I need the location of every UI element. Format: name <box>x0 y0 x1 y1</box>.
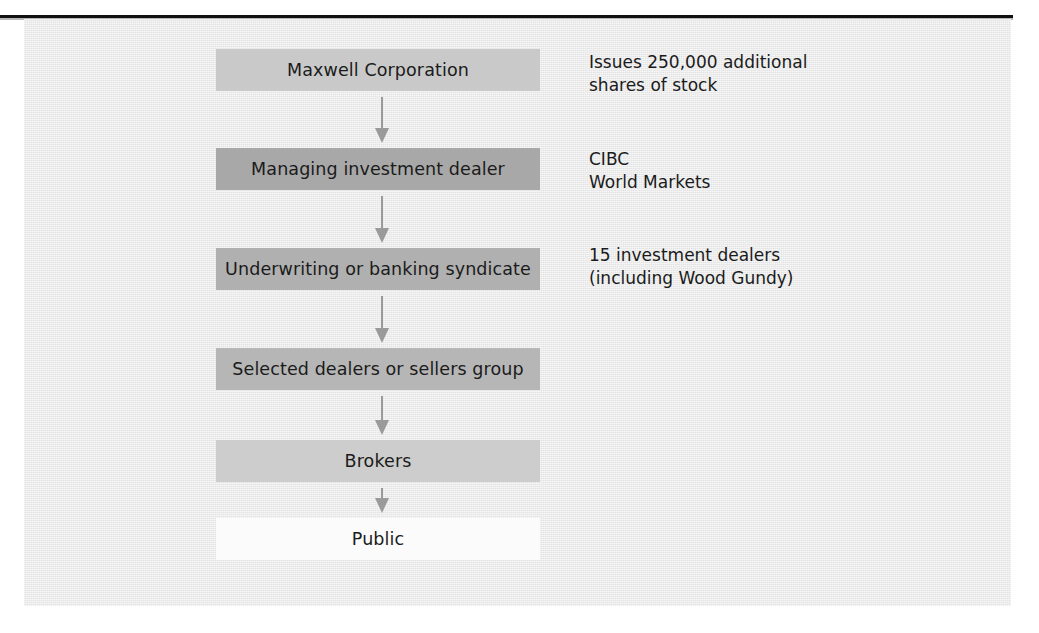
flow-box-label: Public <box>352 529 404 549</box>
arrow-head-icon <box>375 228 389 243</box>
flow-box-label: Underwriting or banking syndicate <box>225 259 531 279</box>
arrow-shaft <box>381 196 383 229</box>
arrow-shaft <box>381 296 383 329</box>
flow-box-issuer: Maxwell Corporation <box>216 49 540 91</box>
flow-box-selected-dealers: Selected dealers or sellers group <box>216 348 540 390</box>
annotation-managing-dealer-note: CIBC World Markets <box>589 148 710 194</box>
arrow-issuer-to-managing-dealer <box>375 97 389 143</box>
arrow-shaft <box>381 396 383 421</box>
flow-box-label: Managing investment dealer <box>251 159 505 179</box>
flow-box-label: Maxwell Corporation <box>287 60 469 80</box>
annotation-issuer-note: Issues 250,000 additional shares of stoc… <box>589 51 807 97</box>
arrow-shaft <box>381 97 383 129</box>
arrow-syndicate-to-selected-dealers <box>375 296 389 343</box>
arrow-selected-dealers-to-brokers <box>375 396 389 435</box>
flow-box-managing-dealer: Managing investment dealer <box>216 148 540 190</box>
arrow-brokers-to-public <box>375 488 389 513</box>
flow-box-syndicate: Underwriting or banking syndicate <box>216 248 540 290</box>
flow-box-brokers: Brokers <box>216 440 540 482</box>
arrow-head-icon <box>375 420 389 435</box>
arrow-head-icon <box>375 328 389 343</box>
flow-box-label: Selected dealers or sellers group <box>232 359 523 379</box>
flow-box-label: Brokers <box>345 451 412 471</box>
arrow-managing-dealer-to-syndicate <box>375 196 389 243</box>
flow-box-public: Public <box>216 518 540 560</box>
arrow-head-icon <box>375 128 389 143</box>
arrow-head-icon <box>375 498 389 513</box>
figure-root: Maxwell Corporation Managing investment … <box>0 0 1039 633</box>
annotation-syndicate-note: 15 investment dealers (including Wood Gu… <box>589 244 793 290</box>
